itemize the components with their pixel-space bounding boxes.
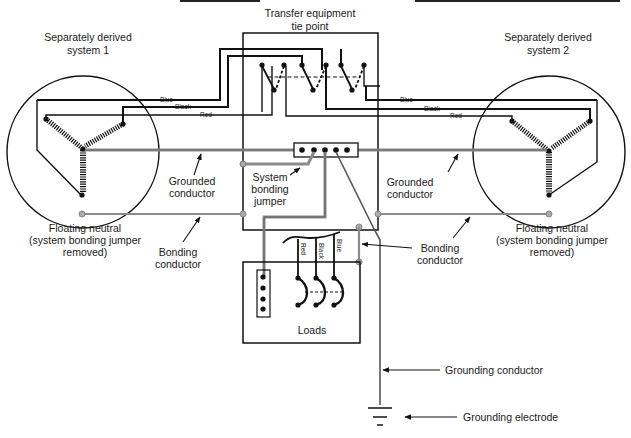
arrow-bonding-left — [183, 217, 200, 242]
arrow-bonding-loads — [362, 244, 412, 248]
title-remnant — [415, 0, 620, 2]
floating-neutral-right-1: Floating neutral — [516, 222, 588, 234]
arrow-system-bonding-jumper — [290, 168, 300, 175]
bonding-left-label-1: Bonding — [159, 246, 198, 258]
title-remnant — [180, 0, 260, 2]
tie-point-label-2: tie point — [292, 20, 329, 32]
wire-label-blue-load: Blue — [336, 239, 343, 252]
bonding-left-label-2: conductor — [155, 258, 202, 270]
bonding-right-label-2: conductor — [417, 254, 464, 266]
floating-neutral-left-1: Floating neutral — [49, 222, 121, 234]
wire-label-blue-right: Blue — [400, 96, 413, 103]
wiring-diagram: Transfer equipment tie point Separately … — [0, 0, 631, 438]
bonding-right-label-1: Bonding — [421, 242, 460, 254]
grounded-left-label-1: Grounded — [169, 175, 216, 187]
sbj-label-1: System — [252, 171, 287, 183]
wire-label-black-right: Black — [424, 105, 441, 112]
sds2-label-1: Separately derived — [504, 31, 592, 43]
floating-neutral-left-3: removed) — [63, 246, 107, 258]
sds2-label-2: system 2 — [527, 44, 569, 56]
wire-label-red-load: Red — [300, 243, 307, 255]
wire-label-black-left: Black — [175, 103, 192, 110]
wire-label-red-left: Red — [200, 111, 212, 118]
wire-label-red-right: Red — [450, 112, 462, 119]
grounding-conductor-label: Grounding conductor — [445, 364, 544, 376]
arrow-grounded-right — [448, 154, 458, 172]
load-phase-conductors — [283, 232, 343, 305]
sds2-phase-conductors — [286, 66, 597, 121]
tie-point-label-1: Transfer equipment — [265, 7, 356, 19]
sds2-generator — [473, 76, 625, 228]
sbj-label-3: jumper — [253, 195, 287, 207]
arrow-grounded-left — [194, 154, 201, 175]
sds1-generator — [7, 76, 159, 228]
loads-label: Loads — [298, 324, 327, 336]
grounding-electrode-symbol — [368, 408, 392, 425]
sds1-label-1: Separately derived — [44, 31, 132, 43]
floating-neutral-right-3: removed) — [530, 246, 574, 258]
sds1-label-2: system 1 — [67, 44, 109, 56]
floating-neutral-right-2: (system bonding jumper — [496, 234, 609, 246]
grounded-right-label-2: conductor — [387, 188, 434, 200]
floating-neutral-left-2: (system bonding jumper — [29, 234, 142, 246]
sbj-label-2: bonding — [251, 183, 289, 195]
grounding-conductor — [336, 152, 380, 405]
sds1-phase-conductors — [37, 49, 322, 124]
grounding-electrode-label: Grounding electrode — [463, 411, 558, 423]
grounded-left-label-2: conductor — [169, 187, 216, 199]
arrow-bonding-right — [453, 217, 470, 238]
grounded-right-label-1: Grounded — [387, 176, 434, 188]
wire-label-black-load: Black — [318, 243, 325, 260]
